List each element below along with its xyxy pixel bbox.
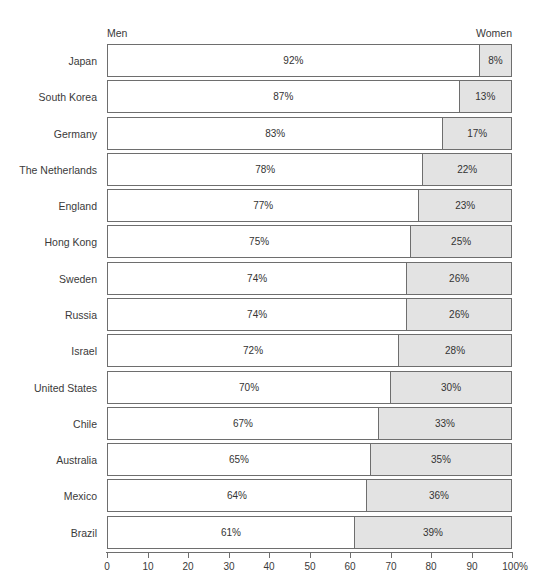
bar-value-men: 72% xyxy=(243,345,263,356)
bar-segment-women: 26% xyxy=(406,299,511,330)
bar-value-men: 77% xyxy=(253,200,273,211)
category-label: Chile xyxy=(0,418,97,430)
bar-value-men: 70% xyxy=(239,382,259,393)
bar-value-men: 83% xyxy=(265,128,285,139)
bar-segment-women: 35% xyxy=(370,444,511,475)
bar-row: 74%26% xyxy=(107,262,512,295)
bar-segment-men: 64% xyxy=(108,480,366,511)
bar-value-women: 13% xyxy=(475,91,495,102)
category-label: Australia xyxy=(0,454,97,466)
x-axis-tick xyxy=(188,553,189,558)
bar-row: 83%17% xyxy=(107,117,512,150)
bar-value-men: 64% xyxy=(227,490,247,501)
category-label: Russia xyxy=(0,309,97,321)
x-axis-tick-label: 0 xyxy=(104,561,110,573)
bar-segment-men: 61% xyxy=(108,517,354,548)
x-axis-tick-label: 70 xyxy=(385,561,396,573)
series-label-men: Men xyxy=(107,27,127,40)
bar-row: 78%22% xyxy=(107,153,512,186)
bar-row: 67%33% xyxy=(107,407,512,440)
bar-segment-men: 78% xyxy=(108,154,422,185)
category-label: Hong Kong xyxy=(0,236,97,248)
bar-value-women: 28% xyxy=(445,345,465,356)
bar-segment-men: 87% xyxy=(108,81,459,112)
category-label: England xyxy=(0,200,97,212)
category-label: Brazil xyxy=(0,527,97,539)
category-label: Germany xyxy=(0,128,97,140)
category-label: Mexico xyxy=(0,490,97,502)
bar-value-women: 33% xyxy=(435,418,455,429)
x-axis-tick-label: 20 xyxy=(182,561,193,573)
bar-segment-women: 25% xyxy=(410,226,511,257)
bar-segment-men: 75% xyxy=(108,226,410,257)
bar-value-women: 23% xyxy=(455,200,475,211)
category-label: Japan xyxy=(0,55,97,67)
x-axis-tick-label: 60 xyxy=(344,561,355,573)
x-axis-tick xyxy=(431,553,432,558)
bar-segment-men: 77% xyxy=(108,190,418,221)
bar-segment-women: 17% xyxy=(442,118,511,149)
bar-segment-women: 36% xyxy=(366,480,511,511)
bar-segment-women: 26% xyxy=(406,263,511,294)
category-label: South Korea xyxy=(0,91,97,103)
x-axis-tick-label: 10 xyxy=(142,561,153,573)
x-axis-tick-label: 90 xyxy=(466,561,477,573)
x-axis-tick xyxy=(148,553,149,558)
x-axis-tick xyxy=(310,553,311,558)
bar-row: 61%39% xyxy=(107,516,512,549)
bar-value-women: 25% xyxy=(451,236,471,247)
plot-area: 92%8%87%13%83%17%78%22%77%23%75%25%74%26… xyxy=(107,44,512,552)
bar-segment-women: 22% xyxy=(422,154,511,185)
bar-value-women: 36% xyxy=(429,490,449,501)
bar-segment-men: 74% xyxy=(108,263,406,294)
x-axis-tick-label: 100% xyxy=(502,561,528,573)
bar-value-men: 61% xyxy=(221,527,241,538)
category-label: United States xyxy=(0,382,97,394)
bar-row: 75%25% xyxy=(107,225,512,258)
bar-value-men: 74% xyxy=(247,309,267,320)
bar-value-women: 35% xyxy=(431,454,451,465)
bar-segment-women: 28% xyxy=(398,335,511,366)
bar-segment-men: 67% xyxy=(108,408,378,439)
bar-value-men: 92% xyxy=(283,55,303,66)
x-axis-tick xyxy=(391,553,392,558)
category-label: The Netherlands xyxy=(0,164,97,176)
bar-segment-women: 33% xyxy=(378,408,511,439)
x-axis-tick xyxy=(512,553,513,558)
bar-row: 77%23% xyxy=(107,189,512,222)
bar-segment-men: 70% xyxy=(108,372,390,403)
bar-segment-men: 92% xyxy=(108,45,479,76)
bar-row: 64%36% xyxy=(107,479,512,512)
x-axis-tick xyxy=(229,553,230,558)
bar-value-women: 39% xyxy=(423,527,443,538)
bar-row: 70%30% xyxy=(107,371,512,404)
bar-value-men: 78% xyxy=(255,164,275,175)
bar-segment-women: 23% xyxy=(418,190,511,221)
x-axis-tick-label: 80 xyxy=(425,561,436,573)
bar-value-women: 17% xyxy=(467,128,487,139)
category-label: Sweden xyxy=(0,273,97,285)
bar-value-men: 74% xyxy=(247,273,267,284)
bar-segment-men: 74% xyxy=(108,299,406,330)
bar-segment-men: 65% xyxy=(108,444,370,475)
bar-segment-men: 72% xyxy=(108,335,398,366)
bar-segment-women: 30% xyxy=(390,372,511,403)
bar-value-women: 26% xyxy=(449,273,469,284)
series-label-women: Women xyxy=(340,27,512,40)
bar-value-men: 75% xyxy=(249,236,269,247)
bar-value-women: 8% xyxy=(488,55,502,66)
x-axis-tick-label: 30 xyxy=(223,561,234,573)
bar-segment-women: 8% xyxy=(479,45,511,76)
x-axis-tick xyxy=(269,553,270,558)
bar-value-men: 65% xyxy=(229,454,249,465)
bar-row: 72%28% xyxy=(107,334,512,367)
bar-value-women: 30% xyxy=(441,382,461,393)
stacked-bar-chart: Men Women 92%8%87%13%83%17%78%22%77%23%7… xyxy=(0,0,539,583)
bar-segment-women: 39% xyxy=(354,517,511,548)
bar-value-men: 67% xyxy=(233,418,253,429)
x-axis-tick-label: 40 xyxy=(263,561,274,573)
x-axis-tick xyxy=(107,553,108,558)
bar-row: 92%8% xyxy=(107,44,512,77)
bar-row: 74%26% xyxy=(107,298,512,331)
bar-row: 65%35% xyxy=(107,443,512,476)
